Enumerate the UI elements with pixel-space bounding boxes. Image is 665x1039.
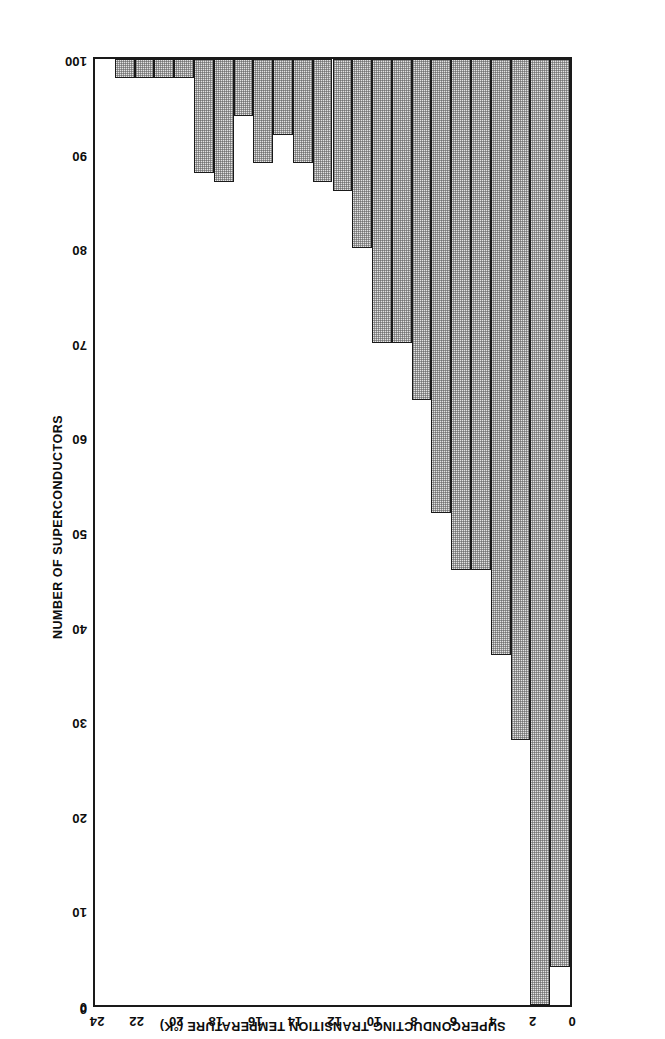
bar (234, 59, 254, 116)
bar (115, 59, 135, 78)
y-tick-label: 40 (72, 621, 87, 636)
x-tick-label: 14 (287, 1014, 302, 1029)
y-tick-label: 10 (72, 905, 87, 920)
x-tick-label: 8 (410, 1014, 417, 1029)
bar (451, 59, 471, 570)
bar (352, 59, 372, 248)
x-tick-label: 0 (568, 1014, 575, 1029)
bar (313, 59, 333, 182)
bar (194, 59, 214, 173)
y-tick-label: 30 (72, 716, 87, 731)
y-tick-label: 0 (80, 1000, 87, 1015)
bar (372, 59, 392, 343)
bar (214, 59, 234, 182)
y-tick-label: 20 (72, 810, 87, 825)
y-tick-label: 90 (72, 148, 87, 163)
bar (550, 59, 570, 967)
bar (293, 59, 313, 163)
plot-area (93, 57, 572, 1007)
y-tick-label: 70 (72, 337, 87, 352)
bar (530, 59, 550, 1005)
x-tick-label: 10 (367, 1014, 382, 1029)
y-tick-label: 50 (72, 527, 87, 542)
x-tick-label: 20 (169, 1014, 184, 1029)
bar (491, 59, 511, 655)
bar (253, 59, 273, 163)
x-tick-label: 16 (248, 1014, 263, 1029)
bar (135, 59, 155, 78)
bar (431, 59, 451, 513)
y-tick-label: 80 (72, 243, 87, 258)
bar (174, 59, 194, 78)
chart-figure: SUPERCONDUCTING TRANSITION TEMPERATURE (… (0, 0, 665, 1039)
x-tick-label: 6 (450, 1014, 457, 1029)
bar (511, 59, 531, 740)
x-tick-label: 12 (327, 1014, 342, 1029)
y-tick-label: 60 (72, 432, 87, 447)
x-tick-label: 2 (529, 1014, 536, 1029)
bar (333, 59, 353, 191)
bar (392, 59, 412, 343)
y-axis-title: NUMBER OF SUPERCONDUCTORS (51, 415, 65, 639)
bar (273, 59, 293, 135)
x-tick-label: 4 (489, 1014, 496, 1029)
bar (471, 59, 491, 570)
bar (154, 59, 174, 78)
bar (412, 59, 432, 400)
x-tick-label: 22 (129, 1014, 144, 1029)
y-tick-label: 100 (65, 54, 87, 69)
x-tick-label: 24 (90, 1014, 105, 1029)
x-tick-label: 18 (208, 1014, 223, 1029)
